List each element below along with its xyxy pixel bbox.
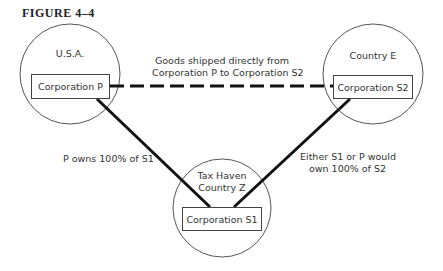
corporation-s1-label: Corporation S1 [186, 214, 257, 225]
figure-title: FIGURE 4–4 [22, 6, 95, 21]
corporation-p-label: Corporation P [38, 81, 103, 92]
s1-or-p-owns-s2-label-line1: Either S1 or P would [300, 151, 395, 163]
p-owns-s1-label: P owns 100% of S1 [63, 153, 153, 165]
corporation-s2-box: Corporation S2 [333, 75, 413, 99]
ownership-diagram: FIGURE 4–4 U.S.A. Corporation P Country … [0, 0, 443, 271]
country-z-label-line2: Country Z [187, 182, 257, 194]
corporation-s1-box: Corporation S1 [182, 207, 262, 231]
corporation-s2-label: Corporation S2 [337, 82, 408, 93]
s1-or-p-owns-s2-label-line2: own 100% of S2 [300, 163, 395, 175]
goods-shipment-label-line1: Goods shipped directly from [152, 55, 292, 67]
usa-label: U.S.A. [45, 48, 95, 60]
corporation-p-box: Corporation P [31, 74, 110, 99]
goods-shipment-label-line2: Corporation P to Corporation S2 [152, 67, 292, 79]
country-z-label-line1: Tax Haven [187, 170, 257, 182]
country-e-label: Country E [343, 50, 403, 62]
